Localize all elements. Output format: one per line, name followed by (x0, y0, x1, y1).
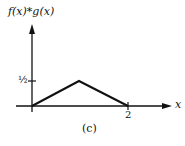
y-axis-label: f(x)*g(x) (8, 6, 54, 17)
x-tick-label: 2 (125, 110, 131, 120)
figure-caption: (c) (82, 123, 97, 134)
y-axis-arrow-icon (29, 24, 35, 34)
x-axis (16, 103, 172, 109)
y-tick-label: ½ (18, 75, 28, 85)
x-axis-arrow-icon (162, 103, 172, 109)
x-axis-label: x (175, 99, 181, 110)
y-axis (29, 24, 35, 112)
convolution-curve (32, 81, 128, 106)
